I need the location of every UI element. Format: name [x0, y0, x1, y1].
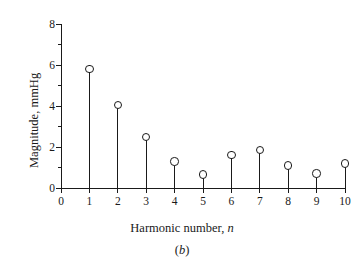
y-tick-minor-1 — [58, 167, 62, 168]
plot-area: 012345678910 02468 — [61, 24, 345, 188]
data-point-n7 — [256, 146, 264, 154]
x-tick-label-0: 0 — [49, 195, 73, 207]
x-tick-8 — [288, 188, 289, 193]
y-axis-label-text: Magnitude, mmHg — [27, 73, 42, 168]
stem-n6 — [231, 155, 232, 188]
y-tick-label-2: 2 — [37, 141, 55, 153]
y-tick-8 — [56, 24, 61, 25]
figure-caption: (b) — [0, 243, 364, 258]
y-tick-0 — [56, 188, 61, 189]
y-tick-label-6: 6 — [37, 59, 55, 71]
y-tick-6 — [56, 65, 61, 66]
stem-n3 — [146, 137, 147, 188]
x-tick-10 — [345, 188, 346, 193]
stem-n2 — [117, 105, 118, 188]
x-tick-4 — [174, 188, 175, 193]
y-tick-minor-5 — [58, 85, 62, 86]
stem-n7 — [259, 150, 260, 188]
figure: Magnitude, mmHg 012345678910 02468 Harmo… — [0, 0, 364, 265]
x-tick-label-8: 8 — [276, 195, 300, 207]
x-axis-label-variable: n — [227, 221, 233, 235]
data-point-n1 — [85, 65, 93, 73]
x-tick-1 — [89, 188, 90, 193]
x-tick-2 — [117, 188, 118, 193]
data-point-n6 — [227, 151, 235, 159]
x-tick-9 — [316, 188, 317, 193]
y-tick-minor-7 — [58, 44, 62, 45]
x-tick-0 — [61, 188, 62, 193]
y-tick-4 — [56, 106, 61, 107]
x-tick-label-1: 1 — [77, 195, 101, 207]
y-axis-line — [61, 24, 62, 188]
y-tick-2 — [56, 147, 61, 148]
y-axis-label: Magnitude, mmHg — [14, 40, 30, 170]
data-point-n4 — [170, 157, 178, 165]
x-tick-label-4: 4 — [163, 195, 187, 207]
data-point-n9 — [312, 169, 320, 177]
x-axis-label: Harmonic number, n — [0, 221, 364, 236]
x-tick-label-10: 10 — [333, 195, 357, 207]
x-tick-label-5: 5 — [191, 195, 215, 207]
x-axis-label-text: Harmonic number, — [130, 221, 227, 235]
data-point-n3 — [142, 133, 150, 141]
data-point-n5 — [199, 170, 207, 178]
x-tick-7 — [259, 188, 260, 193]
y-tick-label-8: 8 — [37, 18, 55, 30]
data-point-n8 — [284, 161, 292, 169]
stem-n1 — [89, 69, 90, 188]
figure-caption-letter: b — [179, 243, 185, 257]
x-tick-label-6: 6 — [219, 195, 243, 207]
x-tick-label-3: 3 — [134, 195, 158, 207]
x-tick-label-9: 9 — [305, 195, 329, 207]
x-tick-label-7: 7 — [248, 195, 272, 207]
x-tick-6 — [231, 188, 232, 193]
y-tick-label-0: 0 — [37, 182, 55, 194]
x-tick-5 — [203, 188, 204, 193]
x-tick-3 — [146, 188, 147, 193]
x-tick-label-2: 2 — [106, 195, 130, 207]
y-tick-minor-3 — [58, 126, 62, 127]
data-point-n2 — [114, 101, 122, 109]
data-point-n10 — [341, 159, 349, 167]
y-tick-label-4: 4 — [37, 100, 55, 112]
